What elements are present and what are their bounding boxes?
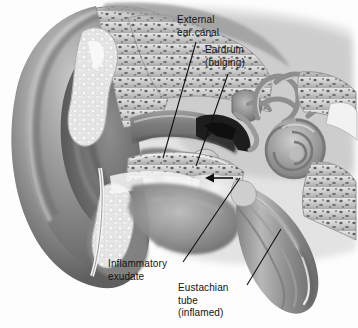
label-eustachian-tube: Eustachian tube (inflamed) bbox=[178, 282, 228, 320]
label-inflammatory-exudate: Inflammatory exudate bbox=[108, 258, 167, 283]
label-eardrum: Eardrum (bulging) bbox=[205, 44, 245, 69]
label-external-ear-canal: External ear canal bbox=[177, 14, 219, 39]
ear-anatomy-figure: External ear canal Eardrum (bulging) Inf… bbox=[0, 0, 358, 328]
ear-anatomy-illustration bbox=[0, 0, 358, 328]
